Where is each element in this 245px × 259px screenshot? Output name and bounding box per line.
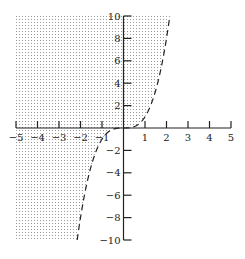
x-tick-label: 2 [163,132,169,143]
y-tick-label: 4 [114,78,120,89]
y-tick-label: −10 [99,235,120,246]
y-tick-label: −4 [106,167,121,178]
y-tick-label: −2 [106,145,121,156]
y-tick-label: 2 [114,100,120,111]
x-tick-label: −4 [30,132,45,143]
y-tick-label: −8 [106,212,121,223]
x-tick-label: −3 [52,132,67,143]
x-tick-label: 3 [185,132,191,143]
y-tick-label: −6 [106,190,121,201]
y-tick-label: 10 [108,11,121,22]
x-tick-labels: −5−4−3−2−112345 [9,132,235,143]
x-tick-label: 1 [142,132,148,143]
x-tick-label: −1 [95,132,110,143]
y-tick-label: 6 [114,55,120,66]
y-tick-label: 8 [114,33,120,44]
x-tick-label: 4 [206,132,212,143]
x-tick-label: −2 [73,132,88,143]
x-tick-label: 5 [228,132,234,143]
inequality-graph: −5−4−3−2−112345 −10−8−6−4−2246810 [0,0,245,259]
x-tick-label: −5 [9,132,24,143]
